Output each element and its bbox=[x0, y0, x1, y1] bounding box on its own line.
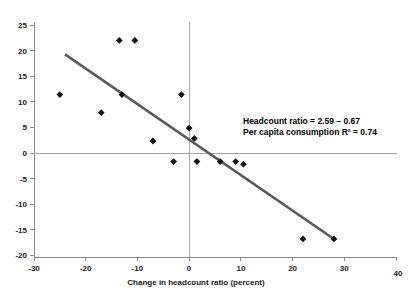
regression-equation-line1: Headcount ratio = 2.59 – 0.67 bbox=[243, 116, 360, 126]
regression-equation-line2: Per capita consumption R² = 0.74 bbox=[243, 127, 377, 137]
regression-annotation: Headcount ratio = 2.59 – 0.67 Per capita… bbox=[243, 116, 377, 137]
y-tick-label: 10 bbox=[18, 98, 27, 107]
y-tick-label: -20 bbox=[15, 251, 27, 260]
y-tick-label: 15 bbox=[18, 72, 27, 81]
x-tick-label: 30 bbox=[340, 264, 349, 273]
y-tick-label: 20 bbox=[18, 47, 27, 56]
y-tick-label: 0 bbox=[23, 149, 28, 158]
y-tick-label: 5 bbox=[23, 123, 28, 132]
x-tick-label: 10 bbox=[236, 264, 245, 273]
x-tick-label: -30 bbox=[28, 264, 40, 273]
x-tick-label: -10 bbox=[132, 264, 144, 273]
y-tick-label: -10 bbox=[15, 200, 27, 209]
chart-canvas: 25 20 15 10 5 0 -5 -10 -15 -20 -30 -20 - bbox=[0, 0, 410, 292]
x-tick-label: 20 bbox=[288, 264, 297, 273]
y-tick-label: -5 bbox=[20, 175, 28, 184]
x-tick-label: 0 bbox=[187, 264, 192, 273]
y-tick-label: 25 bbox=[18, 21, 27, 30]
x-axis-title: Change in headcount ratio (percent) bbox=[127, 278, 265, 287]
x-tick-label: 40 bbox=[394, 269, 403, 278]
x-tick-label: -20 bbox=[80, 264, 92, 273]
scatter-chart: 25 20 15 10 5 0 -5 -10 -15 -20 -30 -20 - bbox=[0, 0, 410, 292]
chart-background bbox=[0, 0, 410, 292]
y-tick-label: -15 bbox=[15, 226, 27, 235]
